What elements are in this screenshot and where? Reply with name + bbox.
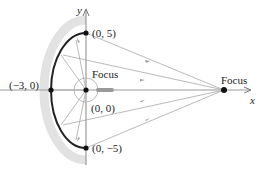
x-axis-label: x xyxy=(249,94,255,106)
point-bottom-vertex xyxy=(83,145,88,150)
point-right-focus xyxy=(221,87,227,93)
label-left-focus: Focus xyxy=(92,68,118,80)
label-origin: (0, 0) xyxy=(91,102,115,115)
label-top-vertex: (0, 5) xyxy=(92,27,116,40)
point-left-vertex xyxy=(48,87,53,92)
reflector-diagram: y x (0, 5) (−3, 0) (0, 0) (0, −5) Focus … xyxy=(0,0,267,179)
label-bottom-vertex: (0, −5) xyxy=(92,142,122,155)
label-right-focus: Focus xyxy=(221,74,247,86)
y-axis-label: y xyxy=(76,4,82,16)
incident-rays xyxy=(51,40,86,140)
label-left-vertex: (−3, 0) xyxy=(9,79,39,92)
point-origin xyxy=(83,87,88,92)
bulb-icon xyxy=(96,88,114,92)
point-top-vertex xyxy=(83,30,88,35)
